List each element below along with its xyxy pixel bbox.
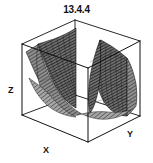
axis-label-x: X xyxy=(43,145,49,155)
surface-ridge-right-shadow xyxy=(89,40,101,113)
axis-label-y: Y xyxy=(127,129,133,139)
surface-plot-figure: 13.4.4 xyxy=(0,0,153,163)
surface-plot-canvas: Z X Y xyxy=(0,0,153,163)
surface-wing-right xyxy=(127,58,137,116)
axis-label-z: Z xyxy=(8,85,14,95)
surface-mesh xyxy=(26,28,137,119)
